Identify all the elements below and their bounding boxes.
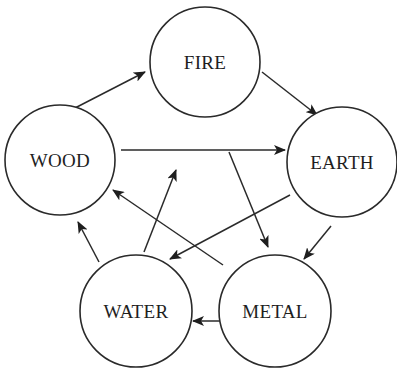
arrow-water-to-fire [144, 170, 176, 252]
node-water: WATER [80, 255, 192, 367]
arrow-fire-to-metal [229, 152, 268, 247]
arrow-water-to-wood [78, 222, 99, 262]
node-wood: WOOD [5, 105, 115, 215]
node-label-metal: METAL [242, 301, 307, 322]
node-metal: METAL [219, 255, 331, 367]
node-label-wood: WOOD [30, 150, 90, 171]
arrow-wood-to-fire [75, 72, 145, 108]
node-label-earth: EARTH [310, 152, 374, 173]
nodes-group: FIREWOODEARTHWATERMETAL [5, 7, 397, 367]
arrow-earth-to-water [170, 195, 290, 259]
five-elements-diagram: FIREWOODEARTHWATERMETAL [0, 0, 397, 378]
arrow-metal-to-wood [113, 190, 223, 265]
node-earth: EARTH [287, 107, 397, 217]
node-fire: FIRE [150, 7, 260, 117]
arrow-fire-to-earth [262, 72, 317, 115]
node-label-water: WATER [104, 301, 169, 322]
arrow-earth-to-metal [304, 226, 331, 259]
node-label-fire: FIRE [184, 52, 226, 73]
